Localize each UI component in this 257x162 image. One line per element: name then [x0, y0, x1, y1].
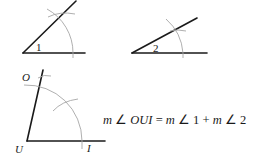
- angle-symbol: ∠: [115, 113, 127, 127]
- angle-OUI-cross-arc-O: [38, 75, 51, 78]
- angle-2-diagonal-ray: [132, 18, 197, 53]
- angle-1-diagonal-ray: [23, 1, 76, 53]
- angle-1-figure: 1: [23, 1, 85, 58]
- angle-2-figure: 2: [132, 18, 207, 58]
- angle-addition-equation: m ∠ OUI = m ∠ 1 + m ∠ 2: [103, 112, 246, 128]
- angle-symbol: ∠: [178, 113, 190, 127]
- measure-symbol: m: [213, 113, 222, 127]
- measure-symbol: m: [166, 113, 175, 127]
- angle-OUI-figure: O U I: [15, 70, 105, 155]
- angle-2-arc: [166, 19, 183, 58]
- angle-2-label: 2: [153, 42, 159, 54]
- measure-symbol: m: [103, 113, 112, 127]
- angle-construction-diagram: 1 2 O U I: [0, 0, 257, 162]
- angle-1-label: 1: [36, 41, 42, 53]
- point-U-label: U: [15, 143, 24, 155]
- angle-symbol: ∠: [225, 113, 237, 127]
- angle-2-cross-arc: [170, 30, 186, 31]
- plus-sign: +: [202, 113, 209, 127]
- point-O-label: O: [22, 71, 30, 83]
- equals-sign: =: [156, 113, 163, 127]
- angle-name-1: 1: [193, 113, 199, 127]
- angle-name-2: 2: [240, 113, 246, 127]
- point-I-label: I: [86, 142, 92, 154]
- angle-name-OUI: OUI: [130, 113, 152, 127]
